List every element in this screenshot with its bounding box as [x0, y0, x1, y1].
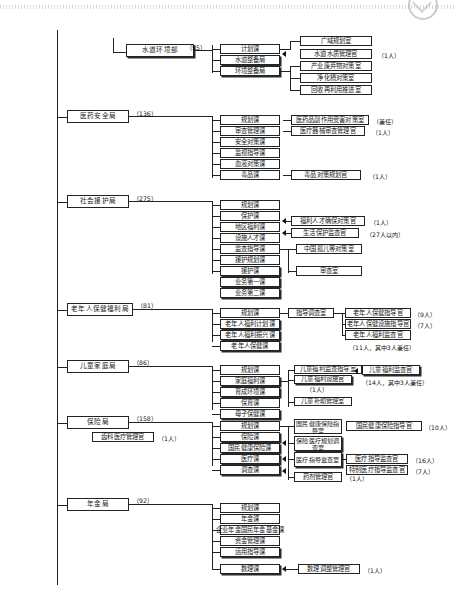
office-water-env-1[interactable]: 水道水质管理官	[300, 49, 372, 59]
office-water-env-3[interactable]: 净化槽对策室	[300, 73, 372, 83]
division-elderly-1[interactable]: 老年人福利计划课	[220, 319, 280, 329]
division-insurance-2[interactable]: 国民健康保险课	[220, 443, 280, 453]
division-pension-2[interactable]: 企业年金国民年金基金课	[220, 525, 280, 535]
connector	[129, 422, 212, 423]
bureau-pharma-safety[interactable]: 医药安全局	[67, 110, 129, 123]
office-insurance-mid-0[interactable]: 国民健康保险指导室	[294, 419, 342, 434]
connector	[334, 313, 342, 314]
division-pharma-5[interactable]: 毒品课	[220, 170, 280, 180]
office-elderly-1[interactable]: 老年人保健设施指导官	[345, 319, 411, 329]
office-social-3[interactable]: 审查室	[296, 266, 362, 276]
office-child-mid-2[interactable]: 儿童补助管理室	[294, 397, 352, 406]
office-water-env-1-note: （1人）	[378, 51, 400, 60]
office-insurance-mid-1[interactable]: 保险医疗规划调查室	[294, 436, 342, 451]
connector	[57, 117, 67, 118]
connector	[212, 392, 220, 393]
connector	[288, 426, 289, 480]
bureau-social-aid[interactable]: 社会援护局	[67, 195, 129, 208]
connector	[129, 201, 212, 202]
division-pharma-3[interactable]: 监视指导课	[220, 148, 280, 158]
division-social-0[interactable]: 规划课	[220, 200, 280, 210]
office-water-env-2[interactable]: 产业废弃物对策室	[300, 61, 372, 71]
office-social-0[interactable]: 福利人才确保对策官	[291, 216, 365, 226]
division-child-3[interactable]: 保育课	[220, 398, 280, 408]
office-child-mid-0[interactable]: 儿童福利监查指导室	[294, 365, 362, 374]
division-water-env-1[interactable]: 水道整备局	[220, 55, 280, 65]
division-pharma-4[interactable]: 血液对策课	[220, 159, 280, 169]
arrow-drug-manager	[282, 468, 286, 474]
connector	[212, 60, 220, 61]
office-pension-0[interactable]: 数理调整管理官	[298, 564, 360, 574]
connector	[212, 426, 220, 427]
division-child-4[interactable]: 母子保健课	[220, 409, 280, 419]
connector	[212, 120, 220, 121]
connector	[212, 71, 220, 72]
division-water-env-0[interactable]: 计划课	[220, 44, 280, 54]
division-pharma-2[interactable]: 安全对策课	[220, 137, 280, 147]
connector	[212, 541, 220, 542]
bureau-pension[interactable]: 年金局	[67, 498, 129, 511]
division-social-1[interactable]: 保护课	[220, 211, 280, 221]
division-pharma-0[interactable]: 规划课	[220, 115, 280, 125]
division-child-2[interactable]: 育成环境课	[220, 387, 280, 397]
office-insurance-1[interactable]: 医疗指导监查官	[346, 454, 408, 464]
division-pension-5[interactable]: 数理课	[220, 564, 280, 574]
division-insurance-0[interactable]: 规划课	[220, 421, 280, 431]
division-elderly-2[interactable]: 老年人福利振兴课	[220, 330, 280, 340]
connector	[280, 381, 288, 382]
office-insurance-side[interactable]: 齿科医疗管理官	[92, 432, 154, 442]
connector	[283, 120, 291, 121]
division-social-5[interactable]: 援护规划课	[220, 255, 280, 265]
connector	[286, 569, 298, 570]
division-social-7[interactable]: 业务第一课	[220, 277, 280, 287]
division-water-env-2[interactable]: 环境整备局	[220, 66, 280, 76]
office-child-0[interactable]: 儿童福利监查官	[362, 365, 420, 375]
connector	[280, 49, 290, 50]
division-child-1[interactable]: 家庭福利课	[220, 376, 280, 386]
division-pension-3[interactable]: 资金管理课	[220, 536, 280, 546]
connector	[290, 41, 300, 42]
connector	[57, 423, 67, 424]
division-elderly-0[interactable]: 规划课	[220, 308, 280, 318]
office-insurance-mid-2[interactable]: 医疗指导监查室	[294, 452, 342, 467]
office-pharma-0[interactable]: 医药品副作用受害对策室	[291, 115, 369, 125]
division-social-2[interactable]: 地区福利课	[220, 222, 280, 232]
office-elderly-2[interactable]: 老年人福利监查官	[345, 330, 411, 340]
division-child-0[interactable]: 规划课	[220, 365, 280, 375]
office-social-0-note: （1人）	[370, 218, 392, 227]
division-elderly-3[interactable]: 老年人保健课	[220, 341, 280, 351]
office-pharma-1[interactable]: 医疗器械审查管理官	[291, 126, 365, 136]
division-insurance-4[interactable]: 调查课	[220, 465, 280, 475]
division-pension-0[interactable]: 规划课	[220, 503, 280, 513]
division-pension-1[interactable]: 年金课	[220, 514, 280, 524]
connector	[212, 324, 220, 325]
office-child-mid-1[interactable]: 儿童福利设施官	[294, 375, 352, 384]
division-pension-4[interactable]: 运用指导课	[220, 547, 280, 557]
arrow-child-inspector	[354, 368, 358, 374]
bureau-child-family[interactable]: 儿童家庭局	[67, 360, 129, 373]
office-insurance-mid-3[interactable]: 药剂管理官	[294, 472, 342, 482]
division-social-4[interactable]: 监查指导课	[220, 244, 280, 254]
connector	[212, 205, 220, 206]
division-social-8[interactable]: 业务第二课	[220, 288, 280, 298]
office-elderly-0[interactable]: 老年人保健指导官	[345, 308, 411, 318]
division-social-6[interactable]: 援护课	[220, 266, 280, 276]
connector	[212, 313, 220, 314]
connector	[290, 78, 300, 79]
division-insurance-3[interactable]: 医疗课	[220, 454, 280, 464]
bureau-elderly[interactable]: 老年人保健福利局	[67, 303, 133, 316]
office-social-1[interactable]: 生活保护监查官	[291, 228, 359, 238]
bureau-water-env[interactable]: 水道环境部	[126, 44, 194, 57]
office-social-2[interactable]: 中国孤儿等对策室	[296, 244, 362, 254]
office-pension-0-note: （1人）	[364, 566, 386, 575]
office-insurance-0[interactable]: 国民健康保险指导官	[346, 421, 422, 431]
office-elderly-guidance-room[interactable]: 指导调查室	[288, 308, 334, 318]
office-social-1-note: （27人以内）	[366, 230, 404, 239]
division-insurance-1[interactable]: 保险课	[220, 432, 280, 442]
office-pharma-2[interactable]: 毒品对策规划官	[291, 170, 361, 180]
division-social-3[interactable]: 设施人才课	[220, 233, 280, 243]
office-water-env-4[interactable]: 回收再利用推进室	[300, 85, 372, 95]
bureau-insurance[interactable]: 保险局	[67, 416, 129, 429]
division-pharma-1[interactable]: 审查管理课	[220, 126, 280, 136]
office-water-env-0[interactable]: 广域规划室	[300, 36, 372, 46]
